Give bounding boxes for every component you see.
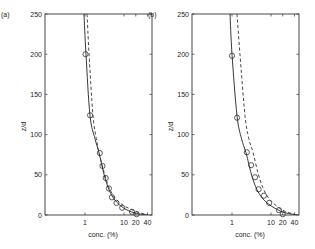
panel-label: (b): [148, 11, 157, 19]
x-tick-label: 20: [279, 219, 287, 226]
x-tick-label: 10: [120, 219, 128, 226]
plot-series: [83, 14, 148, 217]
plot-series: [229, 14, 297, 217]
y-axis-label: z/d: [20, 122, 27, 131]
y-tick-label: 100: [177, 131, 189, 138]
y-tick-label: 150: [30, 91, 42, 98]
y-tick-label: 100: [30, 131, 42, 138]
x-tick-label: 40: [144, 219, 152, 226]
dashed-model-curve: [237, 14, 297, 215]
x-tick-label: 1: [230, 219, 234, 226]
x-tick-label: 40: [291, 219, 299, 226]
y-tick-label: 150: [177, 91, 189, 98]
y-tick-label: 0: [185, 212, 189, 219]
y-axis-label: z/d: [167, 122, 174, 131]
two-panel-concentration-profile-chart: (a) z/d conc. (%) 050100150200250 110204…: [0, 0, 315, 249]
y-tick-label: 200: [30, 51, 42, 58]
x-axis-label: conc. (%): [235, 231, 265, 239]
panel-a: (a) z/d conc. (%) 050100150200250 110204…: [1, 11, 152, 240]
dashed-model-curve: [87, 14, 148, 215]
solid-model-curve: [84, 14, 148, 215]
axes-frame: [45, 14, 152, 215]
y-tick-label: 0: [38, 212, 42, 219]
x-tick-label: 1: [83, 219, 87, 226]
y-tick-label: 250: [177, 11, 189, 18]
x-axis-label: conc. (%): [88, 231, 118, 239]
x-tick-label: 20: [132, 219, 140, 226]
y-tick-label: 200: [177, 51, 189, 58]
x-tick-label: 10: [267, 219, 275, 226]
y-tick-label: 50: [34, 171, 42, 178]
y-ticks: 050100150200250: [30, 11, 152, 219]
y-tick-label: 250: [30, 11, 42, 18]
x-ticks: 1102040: [230, 14, 298, 226]
panel-b: (b) z/d conc. (%) 050100150200250 110204…: [148, 11, 299, 240]
x-ticks: 1102040: [83, 14, 151, 226]
figure: (a) z/d conc. (%) 050100150200250 110204…: [0, 0, 315, 249]
panel-label: (a): [1, 11, 10, 19]
y-tick-label: 50: [181, 171, 189, 178]
y-ticks: 050100150200250: [177, 11, 299, 219]
axes-frame: [192, 14, 299, 215]
solid-model-curve: [230, 14, 297, 215]
